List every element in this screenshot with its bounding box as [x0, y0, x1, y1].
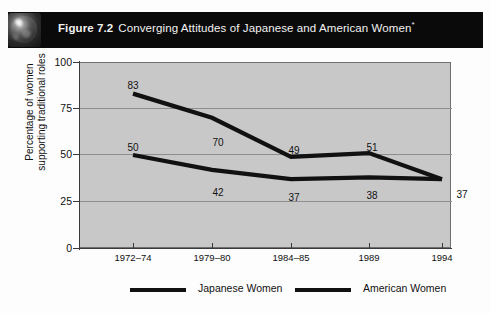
- data-label-us-1979-80: 42: [212, 187, 223, 198]
- gridline-75: [80, 108, 452, 109]
- figure-title: Figure 7.2Converging Attitudes of Japane…: [58, 20, 415, 34]
- y-tick-50: [73, 154, 80, 155]
- x-tick-1984-85: [291, 243, 292, 249]
- legend: Japanese Women American Women: [0, 282, 491, 302]
- x-axis-line: [79, 248, 452, 249]
- y-axis-label-25: 25: [42, 195, 72, 207]
- data-label-jp-1972-74: 83: [127, 80, 138, 91]
- data-label-jp-1979-80: 70: [212, 137, 223, 148]
- x-tick-1972-74: [133, 243, 134, 249]
- data-label-jp-1984-85: 49: [288, 145, 299, 156]
- data-label-jp-1994: 37: [456, 189, 467, 200]
- y-tick-25: [73, 201, 80, 202]
- data-label-us-1984-85: 37: [288, 192, 299, 203]
- data-label-us-1972-74: 50: [127, 142, 138, 153]
- y-axis-title: Percentage of women supporting tradition…: [24, 32, 48, 192]
- x-tick-1979-80: [212, 243, 213, 249]
- legend-label-american-women: American Women: [363, 282, 446, 294]
- y-axis-label-0: 0: [42, 242, 72, 254]
- figure-title-footnote-marker: *: [412, 20, 415, 29]
- x-axis-label-1972-74: 1972–74: [115, 252, 152, 263]
- x-axis-label-1984-85: 1984–85: [273, 252, 310, 263]
- x-tick-1989: [369, 243, 370, 249]
- legend-swatch-american-women: [295, 288, 351, 292]
- x-axis-label-1994: 1994: [431, 252, 452, 263]
- gridline-50: [80, 154, 452, 155]
- legend-swatch-japanese-women: [130, 288, 186, 292]
- data-label-us-1989: 38: [366, 190, 377, 201]
- y-tick-75: [73, 108, 80, 109]
- y-tick-100: [73, 62, 80, 63]
- gridline-25: [80, 201, 452, 202]
- figure-container: Figure 7.2Converging Attitudes of Japane…: [0, 0, 491, 313]
- legend-label-japanese-women: Japanese Women: [198, 282, 282, 294]
- y-tick-0: [73, 248, 80, 249]
- x-axis-label-1979-80: 1979–80: [194, 252, 231, 263]
- data-label-jp-1989: 51: [366, 142, 377, 153]
- figure-title-text: Converging Attitudes of Japanese and Ame…: [118, 22, 411, 34]
- y-axis-title-line1: Percentage of women: [24, 32, 36, 192]
- y-axis-title-line2: supporting traditional roles: [36, 32, 48, 192]
- x-tick-1994: [442, 243, 443, 249]
- x-axis-label-1989: 1989: [358, 252, 379, 263]
- y-axis-line: [79, 61, 80, 250]
